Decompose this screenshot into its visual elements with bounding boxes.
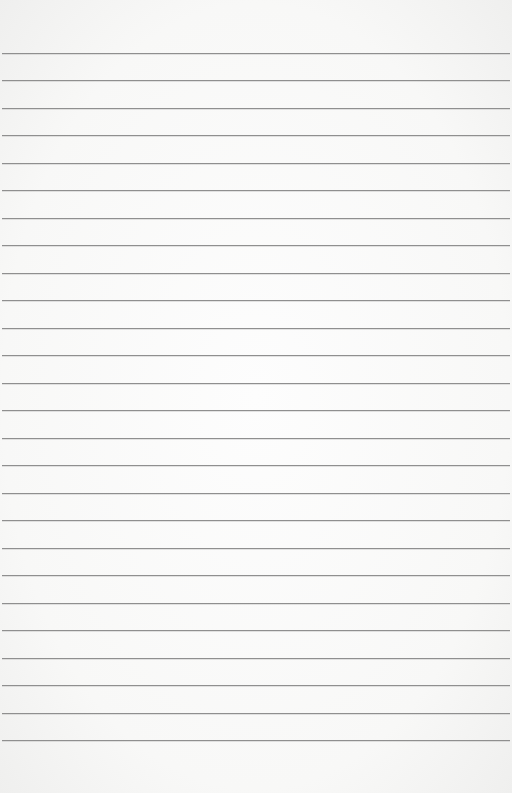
ruled-line [2,108,510,109]
ruled-line [2,273,510,274]
ruled-line [2,713,510,714]
ruled-line [2,438,510,439]
ruled-line [2,245,510,246]
ruled-line [2,163,510,164]
ruled-line [2,685,510,686]
ruled-line [2,630,510,631]
ruled-line [2,328,510,329]
ruled-line [2,218,510,219]
ruled-line [2,740,510,741]
lined-paper-sheet [0,0,512,793]
ruled-line [2,658,510,659]
ruled-line [2,410,510,411]
ruled-line [2,575,510,576]
ruled-line [2,603,510,604]
ruled-line [2,383,510,384]
ruled-line [2,493,510,494]
ruled-line [2,355,510,356]
ruled-line [2,300,510,301]
ruled-line [2,53,510,54]
ruled-line [2,190,510,191]
ruled-line [2,520,510,521]
ruled-line [2,80,510,81]
ruled-line [2,135,510,136]
ruled-line [2,465,510,466]
ruled-line [2,548,510,549]
